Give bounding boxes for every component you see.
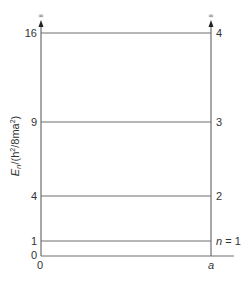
energy-label-4: 4 — [31, 190, 37, 202]
energy-level-diagram: ∞ ∞ 16 9 4 1 0 4 3 2 n = 1 0 a En/(h2/8m… — [0, 0, 252, 284]
energy-label-1: 1 — [31, 235, 37, 247]
left-arrow-icon — [39, 20, 44, 27]
right-arrow-icon — [209, 20, 214, 27]
svg-text:En/(h2/8ma2): En/(h2/8ma2) — [9, 116, 23, 177]
left-infinity-label: ∞ — [38, 12, 44, 20]
right-infinity-label: ∞ — [208, 12, 214, 20]
x-label-zero: 0 — [37, 259, 43, 271]
y-axis-label: En/(h2/8ma2) — [9, 116, 23, 177]
quantum-label-4: 4 — [216, 27, 222, 39]
x-label-a: a — [208, 259, 214, 271]
quantum-label-1: n = 1 — [216, 235, 241, 247]
quantum-label-2: 2 — [216, 190, 222, 202]
energy-label-9: 9 — [31, 116, 37, 128]
energy-label-16: 16 — [25, 27, 37, 39]
quantum-label-3: 3 — [216, 116, 222, 128]
